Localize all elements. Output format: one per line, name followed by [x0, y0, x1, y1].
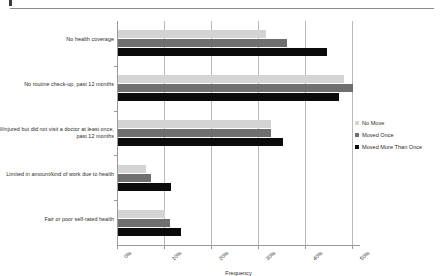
legend-swatch-icon	[355, 133, 359, 137]
x-tick-mark	[258, 246, 259, 249]
category-label: No routine check-up, past 12 months	[0, 81, 114, 88]
category-label: Ill/injured but did not visit a doctor a…	[0, 126, 114, 140]
chart-legend: No MoveMoved OnceMoved More Than Once	[355, 118, 441, 154]
x-tick-mark	[211, 246, 212, 249]
legend-label: Moved More Than Once	[362, 144, 422, 150]
legend-item[interactable]: Moved More Than Once	[355, 142, 441, 152]
bar	[118, 84, 353, 92]
bar-group	[117, 165, 352, 191]
bar	[118, 75, 344, 83]
category-label: No health coverage	[0, 36, 114, 43]
legend-item[interactable]: Moved Once	[355, 130, 441, 140]
x-tick-mark	[352, 246, 353, 249]
x-tick-label: 30%	[265, 250, 277, 262]
legend-label: No Move	[362, 120, 384, 126]
x-tick-mark	[117, 246, 118, 249]
bar	[118, 120, 271, 128]
x-axis-title: Frequency	[117, 270, 360, 276]
x-tick-mark	[164, 246, 165, 249]
bar	[118, 183, 171, 191]
category-label: Fair or poor self-rated health	[0, 216, 114, 223]
x-tick-label: 20%	[218, 250, 230, 262]
bar	[118, 174, 151, 182]
x-tick-label: 50%	[359, 250, 371, 262]
legend-swatch-icon	[355, 121, 359, 125]
page-header	[0, 0, 443, 14]
header-divider	[10, 8, 434, 9]
category-tick	[114, 200, 117, 201]
header-mark	[9, 0, 12, 6]
bar-group	[117, 30, 352, 56]
bar-group	[117, 120, 352, 146]
bar	[118, 138, 283, 146]
bar	[118, 48, 327, 56]
bar-group	[117, 75, 352, 101]
x-tick-label: 40%	[312, 250, 324, 262]
category-tick	[114, 155, 117, 156]
legend-item[interactable]: No Move	[355, 118, 441, 128]
gridline-50%	[352, 21, 353, 245]
x-tick-label: 0%	[123, 250, 133, 260]
category-tick	[114, 111, 117, 112]
x-tick-mark	[305, 246, 306, 249]
bar	[118, 219, 170, 227]
legend-label: Moved Once	[362, 132, 394, 138]
bar	[118, 93, 339, 101]
bar	[118, 228, 181, 236]
legend-swatch-icon	[355, 145, 359, 149]
bar	[118, 39, 287, 47]
bar	[118, 129, 271, 137]
bar	[118, 210, 165, 218]
plot-area	[117, 21, 352, 245]
category-label: Limited in amount/kind of work due to he…	[0, 171, 114, 178]
bar	[118, 30, 266, 38]
bar-group	[117, 210, 352, 236]
x-axis-line	[117, 245, 360, 246]
bar-chart: No health coverageNo routine check-up, p…	[0, 14, 443, 274]
x-tick-label: 10%	[171, 250, 183, 262]
category-label-group: No health coverageNo routine check-up, p…	[0, 21, 114, 245]
category-tick	[114, 66, 117, 67]
bar	[118, 165, 146, 173]
